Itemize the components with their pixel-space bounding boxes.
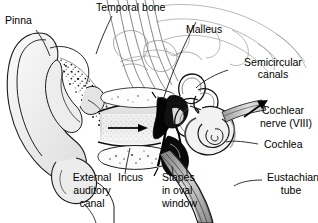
external-auditory-canal <box>98 102 161 146</box>
label-eustachian-tube-line2: tube <box>267 185 315 197</box>
label-external-auditory-canal-line3: canal <box>64 198 120 210</box>
label-cochlea: Cochlea <box>264 139 303 151</box>
label-malleus: Malleus <box>186 24 222 36</box>
label-external-auditory-canal-line2: auditory <box>64 185 120 197</box>
label-eustachian-tube-line1: Eustachian <box>267 172 318 184</box>
label-stapes-line3: window <box>162 198 197 210</box>
ear-anatomy-figure: Pinna Temporal bone Malleus Semicircular… <box>0 0 318 223</box>
label-stapes-line2: in oval <box>162 185 192 197</box>
label-semicircular-canals-line1: Semicircular <box>231 57 315 69</box>
label-external-auditory-canal-line1: External <box>64 172 120 184</box>
label-incus: Incus <box>118 172 143 184</box>
label-pinna: Pinna <box>5 15 32 27</box>
label-stapes-line1: Stapes <box>162 172 195 184</box>
label-semicircular-canals-line2: canals <box>231 69 315 81</box>
label-cochlear-nerve-line1: Cochlear <box>262 105 304 117</box>
label-cochlear-nerve-line2: nerve (VIII) <box>260 118 312 130</box>
label-temporal-bone: Temporal bone <box>96 2 165 14</box>
